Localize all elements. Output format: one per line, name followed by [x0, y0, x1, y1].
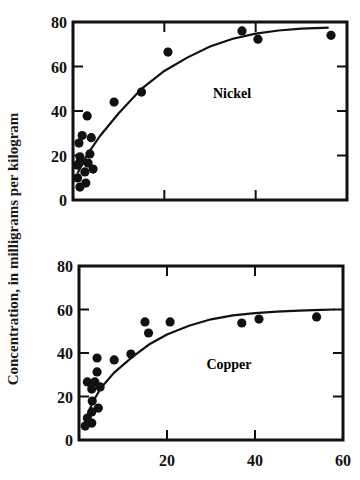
nickel-data-point	[81, 178, 90, 187]
copper-data-point	[92, 353, 101, 362]
copper-y-axis: 020406080	[57, 258, 343, 449]
nickel-data-point	[326, 31, 335, 40]
y-axis-label: Concentration, in milligrams per kilogra…	[5, 113, 22, 386]
nickel-y-axis: 020406080	[51, 14, 347, 209]
nickel-data-point	[253, 35, 262, 44]
nickel-data-point	[78, 131, 87, 140]
nickel-data-point	[163, 47, 172, 56]
copper-x-tick-label: 60	[335, 452, 351, 469]
figure-canvas: 020406080 Nickel 020406080 204060 Copper	[0, 0, 360, 480]
copper-x-tick-label: 20	[159, 452, 175, 469]
nickel-data-point	[87, 133, 96, 142]
nickel-y-tick-label: 80	[51, 14, 67, 31]
nickel-data-point	[80, 167, 89, 176]
copper-data-point	[144, 328, 153, 337]
nickel-data-point	[73, 173, 82, 182]
copper-data-point	[140, 317, 149, 326]
nickel-x-axis	[164, 22, 255, 200]
copper-plot-frame	[79, 266, 343, 440]
nickel-data-point	[137, 87, 146, 96]
nickel-y-tick-label: 60	[51, 59, 67, 76]
copper-data-point	[237, 318, 246, 327]
nickel-data-point	[83, 158, 92, 167]
copper-y-tick-label: 60	[57, 302, 73, 319]
copper-panel: 020406080 204060 Copper	[57, 258, 351, 469]
copper-data-point	[254, 314, 263, 323]
nickel-data-point	[83, 111, 92, 120]
nickel-y-tick-label: 20	[51, 148, 67, 165]
copper-data-point	[94, 403, 103, 412]
nickel-data-point	[237, 26, 246, 35]
copper-data-point	[165, 317, 174, 326]
copper-data-point	[92, 367, 101, 376]
copper-data-point	[90, 377, 99, 386]
copper-y-tick-label: 0	[65, 432, 73, 449]
copper-x-tick-label: 40	[247, 452, 263, 469]
copper-data-point	[88, 396, 97, 405]
nickel-data-points	[73, 26, 336, 191]
copper-data-point	[126, 349, 135, 358]
nickel-data-point	[110, 98, 119, 107]
nickel-label: Nickel	[213, 86, 251, 101]
nickel-y-tick-label: 40	[51, 103, 67, 120]
copper-y-tick-label: 80	[57, 258, 73, 275]
nickel-data-point	[75, 152, 84, 161]
copper-data-point	[312, 312, 321, 321]
copper-data-point	[110, 355, 119, 364]
nickel-panel: 020406080 Nickel	[51, 14, 347, 209]
nickel-plot-frame	[73, 22, 347, 200]
nickel-y-tick-label: 0	[59, 192, 67, 209]
nickel-data-point	[85, 149, 94, 158]
copper-y-tick-label: 40	[57, 345, 73, 362]
copper-label: Copper	[206, 357, 251, 372]
copper-y-tick-label: 20	[57, 389, 73, 406]
